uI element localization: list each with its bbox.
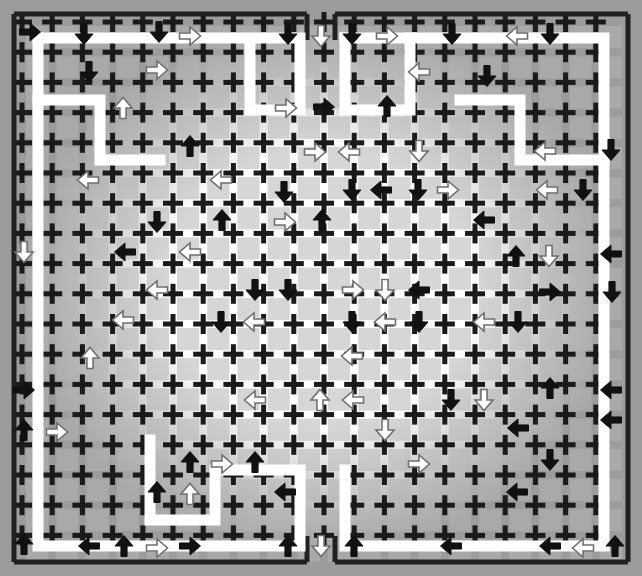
arrow-glyph (343, 180, 361, 201)
arrow-glyph (606, 536, 624, 557)
arrow-glyph (376, 280, 394, 301)
arrow-down-black (343, 312, 361, 333)
arrow-up-white (311, 390, 329, 411)
arrow-glyph (541, 450, 559, 471)
arrow-glyph (275, 483, 296, 501)
arrow-glyph (180, 537, 201, 555)
arrow-left-black (601, 381, 622, 399)
arrow-down-black (212, 312, 230, 333)
arrow-right-white (47, 423, 68, 441)
arrow-left-black (474, 211, 495, 229)
arrow-left-white (78, 171, 99, 189)
arrow-down-black (75, 24, 93, 45)
arrow-left-black (79, 537, 100, 555)
arrow-down-black (574, 180, 592, 201)
arrow-glyph (245, 391, 266, 409)
arrow-glyph (314, 98, 335, 116)
arrow-glyph (80, 62, 98, 83)
arrow-left-white (507, 27, 528, 45)
arrow-down-white (15, 242, 33, 263)
arrow-glyph (113, 311, 134, 329)
arrow-glyph (535, 142, 556, 160)
arrow-left-black (371, 181, 392, 199)
arrow-glyph (279, 24, 297, 45)
arrow-left-white (535, 142, 556, 160)
arrow-left-white (342, 347, 363, 365)
arrow-glyph (312, 536, 330, 557)
arrow-glyph (339, 143, 360, 161)
arrow-up-black (606, 536, 624, 557)
arrow-left-white (343, 391, 364, 409)
arrow-glyph (345, 536, 363, 557)
arrow-left-white (409, 63, 430, 81)
arrow-glyph (409, 281, 430, 299)
arrow-glyph (148, 212, 166, 233)
arrow-glyph (75, 24, 93, 45)
arrow-glyph (376, 420, 394, 441)
arrow-glyph (442, 390, 460, 411)
arrow-down-black (279, 280, 297, 301)
arrow-right-white (212, 455, 233, 473)
arrow-left-white (375, 313, 396, 331)
arrow-glyph (507, 483, 528, 501)
arrow-up-white (114, 98, 132, 119)
arrow-left-white (573, 539, 594, 557)
arrow-glyph (246, 452, 264, 473)
arrow-right-white (409, 455, 430, 473)
arrow-glyph (213, 210, 231, 231)
arrow-glyph (601, 411, 622, 429)
arrow-left-white (113, 311, 134, 329)
arrow-glyph (343, 24, 361, 45)
arrow-left-white (474, 313, 495, 331)
arrow-glyph (305, 143, 326, 161)
arrow-left-black (540, 537, 561, 555)
arrow-down-white (376, 280, 394, 301)
arrow-right-white (276, 99, 297, 117)
arrow-down-black (409, 180, 427, 201)
arrow-down-white (312, 536, 330, 557)
arrow-right-white (180, 27, 201, 45)
arrow-glyph (375, 313, 396, 331)
arrow-glyph (275, 213, 296, 231)
arrow-down-black (478, 66, 496, 87)
arrow-up-black (15, 420, 33, 441)
arrow-up-black (541, 378, 559, 399)
arrow-left-white (244, 313, 265, 331)
arrow-down-black (603, 282, 621, 303)
arrow-glyph (443, 24, 461, 45)
arrow-glyph (409, 455, 430, 473)
arrow-glyph (275, 182, 293, 203)
arrow-left-white (211, 171, 232, 189)
arrow-left-white (147, 281, 168, 299)
arrow-down-black (343, 24, 361, 45)
arrow-glyph (212, 312, 230, 333)
arrow-left-black (508, 419, 529, 437)
arrow-left-white (180, 243, 201, 261)
arrow-right-black (314, 98, 335, 116)
arrow-glyph (115, 536, 133, 557)
arrow-glyph (15, 420, 33, 441)
arrow-glyph (507, 246, 525, 267)
arrow-glyph (211, 171, 232, 189)
arrow-down-white (376, 420, 394, 441)
arrow-glyph (244, 313, 265, 331)
arrow-glyph (410, 141, 428, 162)
arrow-down-white (475, 390, 493, 411)
arrow-up-black (246, 452, 264, 473)
arrow-glyph (181, 136, 199, 157)
arrow-glyph (148, 482, 166, 503)
arrow-glyph (343, 312, 361, 333)
arrow-glyph (474, 211, 495, 229)
arrow-up-black (115, 536, 133, 557)
arrow-glyph (371, 181, 392, 199)
arrow-glyph (147, 61, 168, 79)
arrow-left-white (537, 181, 558, 199)
arrow-right-black (540, 283, 561, 301)
arrow-glyph (507, 27, 528, 45)
arrow-glyph (441, 537, 462, 555)
arrow-down-black (279, 24, 297, 45)
arrow-up-black (279, 536, 297, 557)
arrow-up-black (15, 534, 33, 555)
arrow-glyph (343, 281, 364, 299)
arrow-down-white (540, 246, 558, 267)
